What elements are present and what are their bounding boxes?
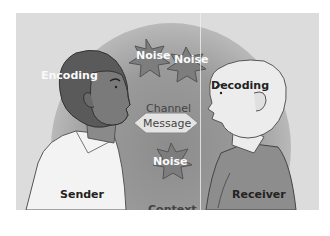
message-label: Message: [143, 118, 191, 129]
receiver-head: [208, 60, 286, 138]
diagram-panel: Encoding Decoding Noise Noise Noise Chan…: [16, 13, 319, 210]
channel-label: Channel: [146, 103, 191, 114]
divider-line: [200, 13, 201, 210]
decoding-label: Decoding: [211, 80, 269, 91]
noise-label-1: Noise: [136, 50, 171, 61]
context-label: Context: [148, 204, 197, 210]
noise-label-3: Noise: [153, 156, 188, 167]
receiver-label: Receiver: [232, 189, 286, 200]
sender-label: Sender: [60, 189, 104, 200]
encoding-label: Encoding: [41, 70, 98, 81]
noise-label-2: Noise: [174, 54, 209, 65]
